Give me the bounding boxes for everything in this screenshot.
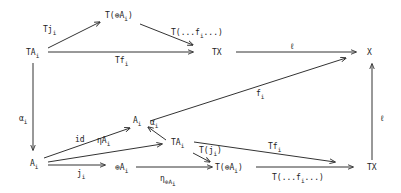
node-sumA: ⊕Ai (115, 163, 129, 174)
node-TX-top: TX (212, 48, 222, 57)
node-A-mid: Ai (133, 116, 142, 127)
label-ell-right: ℓ (380, 114, 385, 123)
label-id: id (75, 135, 85, 144)
node-TsumA-top: T(⊕Ai) (105, 11, 133, 22)
node-TA-top: TAi (26, 48, 40, 59)
node-TsumA-bot: T(⊕Ai) (215, 163, 243, 174)
node-A-left: Ai (30, 159, 39, 170)
arrow-eta (48, 144, 162, 162)
label-j: ji (77, 169, 86, 180)
label-f: fi (256, 89, 265, 100)
arrow-id (44, 128, 130, 158)
label-Tdots-top: T(...fi...) (171, 28, 223, 39)
label-eta: ηAi (97, 136, 111, 147)
label-Tdots-bot: T(...fi...) (272, 173, 324, 184)
label-alpha-mid: αi (150, 118, 159, 129)
label-alpha-left: αi (19, 114, 28, 125)
commutative-diagram: TAi T(⊕Ai) TX X Ai Ai TAi ⊕Ai T(⊕Ai) TX … (0, 0, 401, 193)
label-eta-sum: η⊕Ai (160, 174, 176, 187)
node-TX-bot: TX (367, 163, 377, 172)
label-Tj: Tji (43, 25, 57, 36)
label-Tf-bot: Tfi (268, 142, 282, 153)
label-Tj-paren: T(ji) (199, 146, 222, 157)
arrow-f (150, 58, 346, 121)
label-ell-top: ℓ (290, 42, 295, 51)
node-TA-mid: TAi (171, 138, 185, 149)
label-Tf-top: Tfi (115, 56, 129, 67)
node-X: X (367, 48, 372, 57)
